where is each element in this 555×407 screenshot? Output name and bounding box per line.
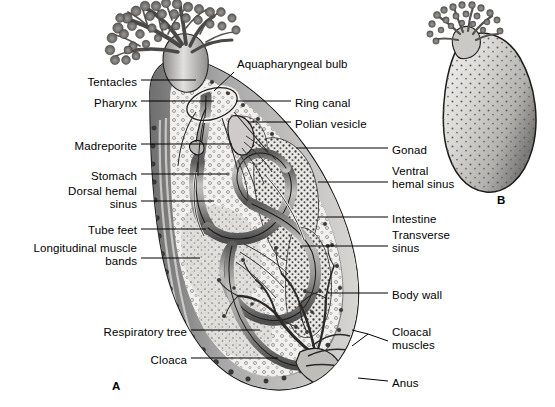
label-dorsal-hemal-sinus: Dorsal hemal sinus — [68, 185, 137, 212]
label-ring-canal: Ring canal — [295, 97, 350, 111]
anus-art — [330, 374, 346, 383]
leader-cloacal-muscles-fork — [352, 330, 388, 346]
label-intestine: Intestine — [392, 213, 436, 227]
anatomical-figure: TentaclesPharynxMadreporiteStomachDorsal… — [0, 0, 555, 407]
panel-caption-b: B — [497, 194, 505, 206]
label-cloaca: Cloaca — [151, 354, 187, 368]
leader-anus — [358, 378, 388, 381]
label-aquapharyngeal-bulb: Aquapharyngeal bulb — [237, 58, 348, 72]
label-transverse-sinus: Transverse sinus — [392, 229, 450, 256]
label-anus: Anus — [392, 377, 419, 391]
label-ventral-hemal-sinus: Ventral hemal sinus — [392, 165, 454, 192]
panel-caption-a: A — [112, 380, 120, 392]
label-stomach: Stomach — [91, 170, 137, 184]
label-pharynx: Pharynx — [94, 97, 137, 111]
label-tentacles: Tentacles — [88, 76, 137, 90]
label-madreporite: Madreporite — [75, 140, 137, 154]
label-cloacal-muscles: Cloacal muscles — [392, 326, 435, 353]
label-gonad: Gonad — [392, 144, 427, 158]
label-longitudinal-muscle-bands: Longitudinal muscle bands — [33, 242, 137, 269]
label-tube-feet: Tube feet — [88, 224, 137, 238]
label-polian-vesicle: Polian vesicle — [295, 118, 367, 132]
label-body-wall: Body wall — [392, 289, 442, 303]
label-respiratory-tree: Respiratory tree — [104, 326, 187, 340]
